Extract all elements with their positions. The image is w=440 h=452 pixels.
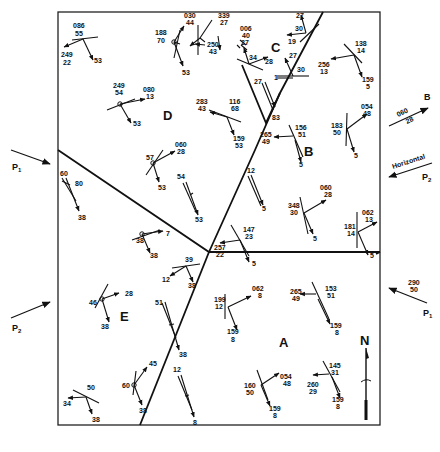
measurement-label: 256 [318,61,330,68]
measurement-label: 153 [325,285,337,292]
measurement-label: 39 [185,256,193,263]
b-east-label: B [424,92,431,102]
measurement-label: 53 [133,120,141,127]
measurement-label: 348 [288,202,300,209]
horizontal-note: Horizontal [391,153,426,170]
measurement-label: 54 [177,173,185,180]
measurement-label: 57 [146,154,154,161]
measurement-label: 265 [260,131,272,138]
measurement-label: 40 [242,32,250,39]
measurement-label: 8 [193,419,197,426]
measurement-label: 14 [347,230,355,237]
measurement-label: 8 [273,412,277,419]
measurement-label: 23 [245,233,253,240]
measurement-label: 250 [207,41,219,48]
b-east-trend: 060 [395,107,409,118]
b-east-plunge: 28 [404,115,414,125]
measurement-label: 12 [173,366,181,373]
measurement-label: 51 [327,292,335,299]
measurement-label: 45 [149,360,157,367]
measurement-label: 159 [233,135,245,142]
measurement-label: 38 [92,416,100,423]
measurement-label: 54 [115,89,123,96]
north-label: N [360,333,369,348]
measurement-label: 159 [227,328,239,335]
measurement-label: 28 [324,191,332,198]
measurement-label: 5 [354,152,358,159]
measurement-label: 28 [125,290,133,297]
measurement-label: 28 [177,148,185,155]
measurement-label: 38 [139,407,147,414]
measurement-label: 43 [198,105,206,112]
measurement-label: 13 [320,68,328,75]
measurement-label: 159 [362,76,374,83]
measurement-label: 156 [295,124,307,131]
measurement-label: 181 [344,223,356,230]
measurement-label: 22 [216,251,224,258]
measurement-label: 13 [365,216,373,223]
measurement-label: 8 [258,292,262,299]
measurement-label: 60 [122,382,130,389]
measurement-label: 062 [252,285,264,292]
measurement-label: 159 [330,322,342,329]
p2-west-label: P2 [12,323,22,334]
measurement-label: 080 [143,86,155,93]
measurement-label: 159 [332,396,344,403]
measurement-label: 31 [331,369,339,376]
measurement-label: 5 [313,235,317,242]
measurement-label: 265 [290,288,302,295]
measurement-label: 116 [229,98,240,105]
p1-east-label: P1 [423,308,433,319]
measurement-label: 46 [89,299,97,306]
measurement-label: 51 [298,131,306,138]
measurement-label: 80 [75,180,83,187]
measurement-label: 44 [186,19,194,26]
station-symbols [62,15,377,417]
measurement-label: 60 [60,170,68,177]
measurement-label: 1 [274,74,278,81]
measurement-label: 53 [158,184,166,191]
measurement-label: 30 [297,66,305,73]
measurement-label: 51 [155,299,163,306]
p2-east-label: P2 [422,172,432,183]
measurement-label: 145 [329,362,341,369]
measurement-label: 34 [249,54,257,61]
measurement-label: 22 [63,59,71,66]
measurement-label: 27 [220,19,228,26]
structural-diagram: A B C D E N P1 P2 B 060 28 Horizontal P2… [0,0,440,452]
measurement-label: 5 [366,83,370,90]
measurement-label: 27 [254,78,262,85]
measurement-label: 8 [231,336,235,343]
measurement-label: 38 [150,252,158,259]
measurement-label: 030 [184,12,196,19]
measurement-label: 27 [289,52,297,59]
measurement-label: 29 [309,388,317,395]
measurement-label: 260 [307,381,319,388]
measurement-label: 13 [146,93,154,100]
measurement-label: 50 [333,129,341,136]
measurement-label: 38 [136,237,144,244]
measurement-label: 183 [331,122,343,129]
measurement-label: 38 [188,282,196,289]
measurement-label: 5 [252,260,256,267]
measurement-label: 5 [370,252,374,259]
measurement-label: 50 [87,384,95,391]
measurement-label: 086 [73,22,85,29]
measurement-label: 43 [209,48,217,55]
measurement-label: 147 [243,226,255,233]
measurement-label: 53 [195,216,203,223]
north-arrow [361,348,371,420]
measurement-label: 28 [265,58,273,65]
measurement-label: 48 [283,380,291,387]
measurement-label: 339 [218,12,230,19]
measurement-label: 27 [241,39,249,46]
p1-east-plunge: 50 [410,286,418,293]
measurement-label: 30 [290,209,298,216]
zone-label-a: A [279,335,289,350]
measurement-label: 53 [235,142,243,149]
zone-label-d: D [163,108,172,123]
measurement-label: 49 [262,138,270,145]
measurement-label: 14 [357,47,365,54]
measurement-label: 006 [240,25,252,32]
measurement-label: 55 [75,30,83,37]
